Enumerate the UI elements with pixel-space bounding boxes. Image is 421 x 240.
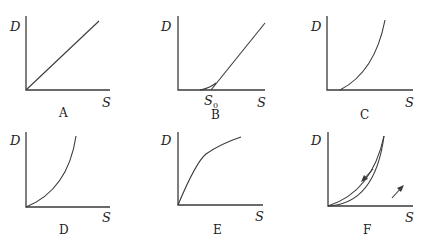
panel-caption: E [213,223,222,237]
axes [26,16,110,90]
x-axis-label: S [102,210,111,225]
panel-caption: B [211,108,220,122]
y-axis-label: D [160,133,172,148]
axes [178,132,263,205]
x-axis-label: S [255,209,264,224]
figure: D S A D S S 0 B D S C D S D D S E [0,0,421,240]
y-axis-label: D [9,133,21,148]
curve-loading [328,136,384,206]
panel-caption: D [59,223,69,237]
y-axis-label: D [310,133,322,148]
y-axis-label: D [310,19,322,34]
arrow-up-right-icon [392,185,404,198]
axes [328,132,413,206]
panel-c: D S C [310,16,414,122]
curve [340,20,385,90]
curve [26,21,99,90]
panel-a: D S A [9,16,111,120]
axes [327,16,413,90]
y-axis-label: D [9,19,21,34]
panel-f: D S F [310,132,414,237]
x-axis-label: S [405,210,414,225]
panel-b: D S S 0 B [160,16,266,122]
x-axis-label: S [102,95,111,110]
panel-caption: F [363,223,371,237]
y-axis-label: D [160,19,172,34]
curve [26,136,76,207]
x-axis-label: S [257,95,266,110]
curve-asymptote [211,23,265,90]
threshold-label: S [204,93,213,108]
panel-caption: C [360,108,369,122]
axes [178,16,265,90]
panel-caption: A [58,106,68,120]
panel-e: D S E [160,132,264,237]
curve [178,137,241,205]
x-axis-label: S [405,95,414,110]
axes [26,132,110,207]
panel-d: D S D [9,132,111,237]
